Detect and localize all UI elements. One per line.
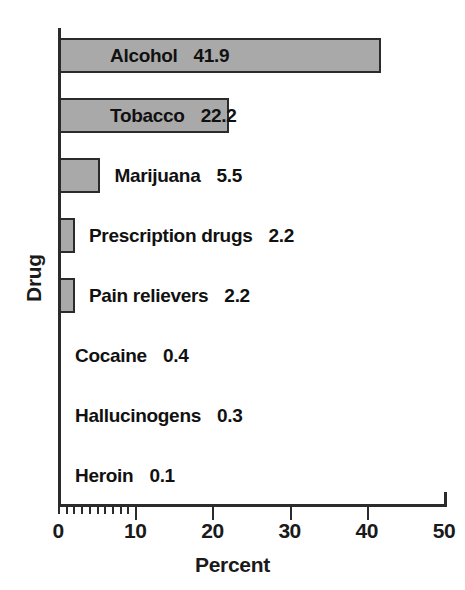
- x-axis-minor-tick: [58, 507, 60, 514]
- bar-category-label: Heroin: [75, 465, 133, 486]
- bar-data-label: Heroin0.1: [75, 465, 175, 487]
- x-axis-tick-label: 30: [278, 519, 300, 543]
- x-axis-minor-tick: [120, 507, 122, 514]
- bar-value-label: 0.1: [149, 465, 175, 486]
- bar-category-label: Marijuana: [114, 165, 200, 186]
- bar-value-label: 41.9: [194, 45, 230, 66]
- bar-value-label: 2.2: [224, 285, 250, 306]
- bar-category-label: Cocaine: [75, 345, 147, 366]
- bar-value-label: 0.4: [163, 345, 189, 366]
- bar-data-label: Cocaine0.4: [75, 345, 188, 367]
- x-axis-title: Percent: [0, 553, 465, 577]
- bar-category-label: Prescription drugs: [89, 225, 253, 246]
- y-axis-line: [58, 28, 61, 507]
- bar-data-label: Tobacco22.2: [110, 105, 236, 127]
- x-axis-minor-tick: [73, 507, 75, 514]
- x-axis-minor-tick: [127, 507, 129, 514]
- x-axis-minor-tick: [66, 507, 68, 514]
- bar-category-label: Hallucinogens: [75, 405, 201, 426]
- x-axis-minor-tick: [112, 507, 114, 514]
- bar: [58, 158, 100, 193]
- bar-chart: Alcohol41.9Tobacco22.2Marijuana5.5Prescr…: [0, 0, 465, 590]
- bar-category-label: Alcohol: [110, 45, 178, 66]
- bar-data-label: Pain relievers2.2: [89, 285, 250, 307]
- x-axis-major-tick: [444, 492, 447, 507]
- x-axis-minor-tick: [81, 507, 83, 514]
- x-axis-tick-label: 20: [201, 519, 223, 543]
- bar-category-label: Pain relievers: [89, 285, 208, 306]
- y-axis-title: Drug: [22, 254, 46, 302]
- x-axis-line: [58, 504, 444, 507]
- bar-value-label: 0.3: [217, 405, 243, 426]
- x-axis-tick-label: 40: [356, 519, 378, 543]
- bar-value-label: 5.5: [216, 165, 242, 186]
- bar-data-label: Hallucinogens0.3: [75, 405, 242, 427]
- x-axis-tick-label: 0: [52, 519, 63, 543]
- bar-data-label: Prescription drugs2.2: [89, 225, 294, 247]
- bar-value-label: 22.2: [201, 105, 237, 126]
- x-axis-tick-label: 50: [433, 519, 455, 543]
- bar-category-label: Tobacco: [110, 105, 185, 126]
- x-axis-minor-tick: [97, 507, 99, 514]
- x-axis-minor-tick: [89, 507, 91, 514]
- x-axis-tick-label: 10: [124, 519, 146, 543]
- x-axis-minor-tick: [104, 507, 106, 514]
- bar-data-label: Alcohol41.9: [110, 45, 229, 67]
- bar-value-label: 2.2: [269, 225, 295, 246]
- bar-data-label: Marijuana5.5: [114, 165, 242, 187]
